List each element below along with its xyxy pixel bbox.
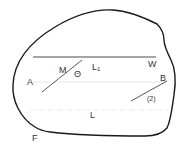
- label-l1-sub: 1: [97, 66, 100, 72]
- label-theta: Θ: [74, 70, 81, 79]
- label-b: B: [160, 74, 166, 83]
- diagram-canvas: [0, 0, 185, 152]
- label-line-2: (2): [147, 95, 156, 102]
- label-f: F: [32, 134, 38, 143]
- label-l: L: [90, 111, 95, 120]
- label-l1: L1: [92, 63, 100, 72]
- label-w: W: [148, 60, 157, 69]
- label-a: A: [27, 78, 33, 87]
- label-m: M: [59, 66, 67, 75]
